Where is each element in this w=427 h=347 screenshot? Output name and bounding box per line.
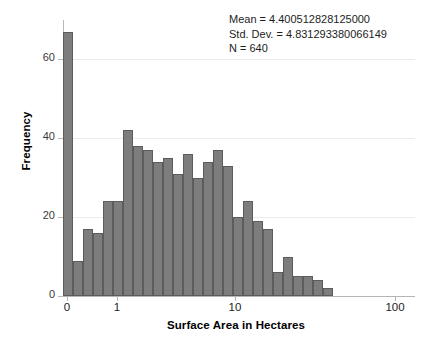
histogram-bar (173, 174, 183, 296)
y-tick-mark-0 (58, 296, 63, 297)
histogram-bar (163, 158, 173, 296)
y-tick-label-0: 0 (15, 288, 55, 300)
histogram-bar (213, 150, 223, 296)
histogram-bar (283, 257, 293, 296)
x-tick-label-100: 100 (375, 301, 415, 313)
histogram-chart: Mean = 4.400512828125000 Std. Dev. = 4.8… (0, 0, 427, 347)
histogram-bar (263, 229, 273, 296)
x-tick-label-0: 0 (47, 301, 87, 313)
y-tick-mark-40 (58, 138, 63, 139)
histogram-bar (313, 280, 323, 296)
y-tick-mark-60 (58, 59, 63, 60)
histogram-bar (103, 201, 113, 296)
histogram-bar (93, 233, 103, 296)
histogram-bar (153, 162, 163, 296)
y-tick-label-20: 20 (15, 209, 55, 221)
x-tick-label-10: 10 (215, 301, 255, 313)
histogram-bar (243, 201, 253, 296)
histogram-bar (303, 276, 313, 296)
histogram-bar (113, 201, 123, 296)
y-tick-mark-20 (58, 217, 63, 218)
y-tick-label-40: 40 (15, 130, 55, 142)
histogram-bar (133, 146, 143, 296)
histogram-bar (83, 229, 93, 296)
x-tick-label-1: 1 (97, 301, 137, 313)
histogram-bar (193, 178, 203, 296)
histogram-bar (63, 32, 73, 296)
histogram-bar (203, 162, 213, 296)
histogram-bar (253, 221, 263, 296)
y-tick-label-60: 60 (15, 51, 55, 63)
bars-layer (63, 20, 415, 296)
histogram-bar (233, 217, 243, 296)
histogram-bar (143, 150, 153, 296)
histogram-bar (223, 166, 233, 296)
histogram-bar (293, 276, 303, 296)
histogram-bar (73, 261, 83, 296)
histogram-bar (123, 130, 133, 296)
x-axis-title: Surface Area in Hectares (56, 319, 416, 331)
x-axis-line (63, 296, 415, 297)
histogram-bar (323, 288, 333, 296)
histogram-bar (183, 154, 193, 296)
histogram-bar (273, 272, 283, 296)
